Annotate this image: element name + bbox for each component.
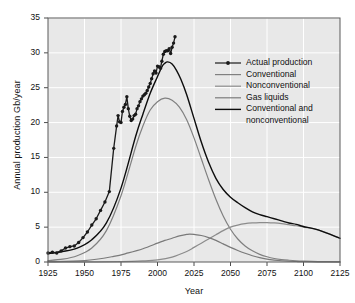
data-point-marker — [86, 230, 89, 233]
data-point-marker — [125, 95, 128, 98]
data-point-marker — [147, 85, 150, 88]
data-point-marker — [112, 147, 115, 150]
y-tick-label: 15 — [18, 151, 40, 161]
legend-item-label[interactable]: Actual production — [246, 57, 312, 67]
legend-item-label[interactable]: nonconventional — [246, 115, 309, 125]
data-point-marker — [127, 107, 130, 110]
y-tick-label: 20 — [18, 117, 40, 127]
data-point-marker — [124, 103, 127, 106]
x-tick-label: 2050 — [211, 268, 251, 278]
data-point-marker — [115, 124, 118, 127]
data-point-marker — [131, 117, 134, 120]
x-axis-title: Year — [48, 286, 340, 296]
y-tick-label: 5 — [18, 221, 40, 231]
data-point-marker — [173, 35, 176, 38]
data-point-marker — [128, 115, 131, 118]
data-point-marker — [94, 217, 97, 220]
data-point-marker — [169, 52, 172, 55]
x-tick-label: 2125 — [320, 268, 355, 278]
data-point-marker — [108, 190, 111, 193]
x-tick-label: 2100 — [284, 268, 324, 278]
data-point-marker — [170, 46, 173, 49]
data-point-marker — [172, 41, 175, 44]
data-point-marker — [167, 47, 170, 50]
data-point-marker — [121, 110, 124, 113]
data-point-marker — [77, 241, 80, 244]
x-tick-label: 2075 — [247, 268, 287, 278]
data-point-marker — [137, 104, 140, 107]
data-point-marker — [73, 244, 76, 247]
legend-item-label[interactable]: Nonconventional — [246, 80, 310, 90]
x-tick-label: 1975 — [101, 268, 141, 278]
legend-sample-marker — [226, 61, 230, 65]
x-tick-label: 1925 — [28, 268, 68, 278]
x-tick-label: 2000 — [138, 268, 178, 278]
data-point-marker — [116, 114, 119, 117]
y-tick-label: 0 — [18, 256, 40, 266]
x-tick-label: 2025 — [174, 268, 214, 278]
legend-item-label[interactable]: Conventional and — [246, 103, 313, 113]
data-point-marker — [55, 251, 58, 254]
data-point-marker — [103, 200, 106, 203]
legend-item-label[interactable]: Gas liquids — [246, 92, 289, 102]
x-tick-label: 1950 — [65, 268, 105, 278]
data-point-marker — [99, 209, 102, 212]
legend-item-label[interactable]: Conventional — [246, 69, 296, 79]
y-tick-label: 25 — [18, 82, 40, 92]
y-tick-label: 30 — [18, 47, 40, 57]
data-point-marker — [149, 82, 152, 85]
data-point-marker — [59, 249, 62, 252]
data-point-marker — [51, 251, 54, 254]
y-tick-label: 10 — [18, 186, 40, 196]
data-point-marker — [134, 113, 137, 116]
data-point-marker — [146, 89, 149, 92]
production-chart: Annual production Gb/year Year 051015202… — [0, 0, 355, 303]
chart-canvas — [0, 0, 355, 303]
data-point-marker — [68, 245, 71, 248]
data-point-marker — [90, 223, 93, 226]
data-point-marker — [150, 77, 153, 80]
data-point-marker — [119, 121, 122, 124]
data-point-marker — [154, 71, 157, 74]
data-point-marker — [160, 60, 163, 63]
data-point-marker — [159, 66, 162, 69]
data-point-marker — [64, 246, 67, 249]
data-point-marker — [81, 236, 84, 239]
y-tick-label: 35 — [18, 12, 40, 22]
